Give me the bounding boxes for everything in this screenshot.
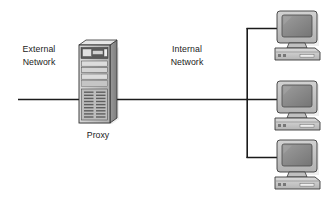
proxy-server-icon [79,40,119,124]
proxy-label: Proxy [69,129,128,141]
internal-network-label-line2: Network [157,56,218,69]
diagram-illustration [0,0,336,197]
client-computer-3 [275,140,320,189]
internal-network-label-line1: Internal [157,43,218,56]
external-network-label-line1: External [9,43,70,56]
client-computer-2 [275,81,320,130]
proxy-side-panel [110,40,117,123]
proxy-bay-3 [82,74,108,79]
proxy-bay-2 [82,68,108,73]
proxy-bay-1 [82,61,108,66]
client-1-floppy-slot [300,55,314,58]
network-diagram: External Network Internal Network Proxy [0,0,336,197]
internal-network-label: Internal Network [157,43,218,68]
external-network-label-line2: Network [9,56,70,69]
external-network-label: External Network [9,43,70,68]
proxy-top-panel [79,40,117,45]
proxy-drive-bay [83,49,92,57]
client-computer-1 [275,11,320,60]
client-2-floppy-slot [300,125,314,128]
client-3-floppy-slot [300,184,314,187]
